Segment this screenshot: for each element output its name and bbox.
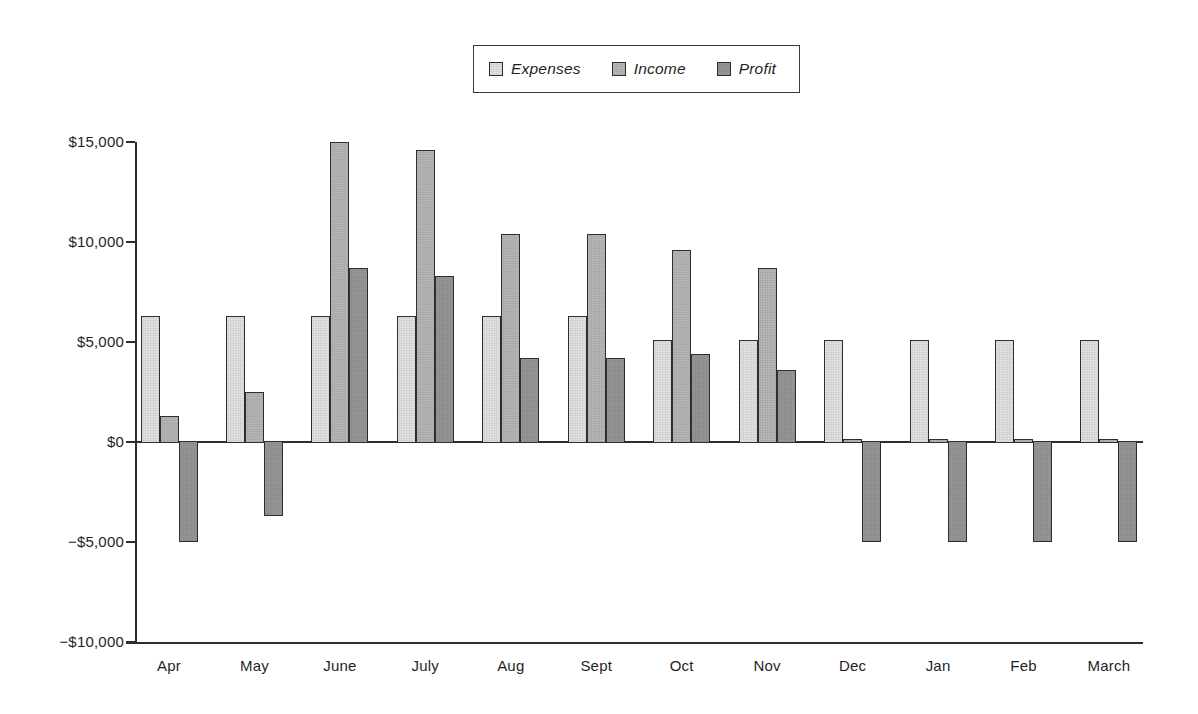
legend-swatch-profit-icon — [717, 62, 731, 76]
y-axis-line — [135, 142, 137, 644]
bar-profit-march — [1118, 441, 1137, 542]
chart-legend: Expenses Income Profit — [473, 45, 800, 93]
bar-profit-dec — [862, 441, 881, 542]
bar-profit-sept — [606, 358, 625, 443]
bar-profit-july — [435, 276, 454, 443]
x-tick-label-sept: Sept — [554, 657, 638, 674]
chart-figure: Expenses Income Profit $15,000$10,000$5,… — [0, 0, 1198, 714]
bar-expenses-may — [226, 316, 245, 443]
y-tick-1 — [126, 241, 135, 243]
bar-income-sept — [587, 234, 606, 443]
y-tick-label-2: $5,000 — [18, 333, 124, 351]
bar-income-nov — [758, 268, 777, 443]
legend-item-income: Income — [612, 60, 686, 78]
bar-profit-jan — [948, 441, 967, 542]
x-tick-label-may: May — [212, 657, 296, 674]
bar-profit-june — [349, 268, 368, 443]
x-tick-label-june: June — [298, 657, 382, 674]
bar-income-feb — [1014, 439, 1033, 443]
y-tick-label-1: $10,000 — [18, 233, 124, 251]
bar-expenses-june — [311, 316, 330, 443]
bar-income-dec — [843, 439, 862, 443]
bar-expenses-march — [1080, 340, 1099, 443]
y-tick-label-4: −$5,000 — [18, 533, 124, 551]
bar-expenses-dec — [824, 340, 843, 443]
x-tick-label-march: March — [1067, 657, 1151, 674]
bar-profit-feb — [1033, 441, 1052, 542]
bar-profit-oct — [691, 354, 710, 443]
legend-label-expenses: Expenses — [511, 60, 581, 78]
bar-income-june — [330, 142, 349, 443]
legend-item-profit: Profit — [717, 60, 776, 78]
x-axis-line — [126, 642, 1143, 644]
x-tick-label-apr: Apr — [127, 657, 211, 674]
bar-income-aug — [501, 234, 520, 443]
bar-profit-aug — [520, 358, 539, 443]
bar-income-march — [1099, 439, 1118, 443]
bar-expenses-jan — [910, 340, 929, 443]
bar-expenses-nov — [739, 340, 758, 443]
legend-item-expenses: Expenses — [489, 60, 581, 78]
y-tick-label-3: $0 — [18, 433, 124, 451]
bar-expenses-sept — [568, 316, 587, 443]
zero-axis-line — [135, 441, 1143, 443]
x-tick-label-oct: Oct — [640, 657, 724, 674]
y-tick-2 — [126, 341, 135, 343]
legend-label-profit: Profit — [739, 60, 776, 78]
bar-income-oct — [672, 250, 691, 443]
bar-expenses-apr — [141, 316, 160, 443]
x-tick-label-dec: Dec — [811, 657, 895, 674]
y-tick-3 — [126, 441, 135, 443]
bar-expenses-aug — [482, 316, 501, 443]
x-tick-label-jan: Jan — [896, 657, 980, 674]
bar-income-jan — [929, 439, 948, 443]
y-tick-4 — [126, 541, 135, 543]
bar-income-july — [416, 150, 435, 443]
y-tick-0 — [126, 141, 135, 143]
y-tick-label-0: $15,000 — [18, 133, 124, 151]
bar-expenses-feb — [995, 340, 1014, 443]
bar-profit-may — [264, 441, 283, 516]
x-tick-label-aug: Aug — [469, 657, 553, 674]
bar-profit-nov — [777, 370, 796, 443]
bar-income-may — [245, 392, 264, 443]
y-tick-label-5: −$10,000 — [18, 633, 124, 651]
x-tick-label-feb: Feb — [982, 657, 1066, 674]
legend-swatch-income-icon — [612, 62, 626, 76]
bar-profit-apr — [179, 441, 198, 542]
x-tick-label-july: July — [383, 657, 467, 674]
bar-expenses-oct — [653, 340, 672, 443]
legend-label-income: Income — [634, 60, 686, 78]
x-tick-label-nov: Nov — [725, 657, 809, 674]
bar-expenses-july — [397, 316, 416, 443]
bar-income-apr — [160, 416, 179, 443]
legend-swatch-expenses-icon — [489, 62, 503, 76]
